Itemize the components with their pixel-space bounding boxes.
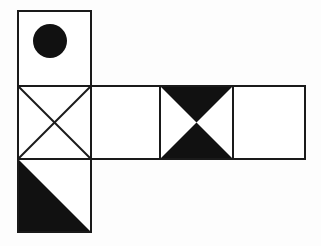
cell-top-circle bbox=[18, 11, 91, 86]
cell-middle-blank-left bbox=[91, 86, 160, 159]
cell-bottom-triangle bbox=[18, 159, 91, 232]
cell-middle-x bbox=[18, 86, 91, 159]
cube-net-figure: Cube net figure Unfolded cube net compos… bbox=[0, 0, 321, 246]
filled-circle-icon bbox=[33, 24, 67, 58]
cell-middle-4-outline bbox=[233, 86, 305, 159]
cell-middle-blank-right bbox=[233, 86, 305, 159]
cell-middle-hourglass bbox=[160, 86, 233, 159]
cell-middle-2-outline bbox=[91, 86, 160, 159]
cube-net-diagram bbox=[0, 0, 321, 246]
